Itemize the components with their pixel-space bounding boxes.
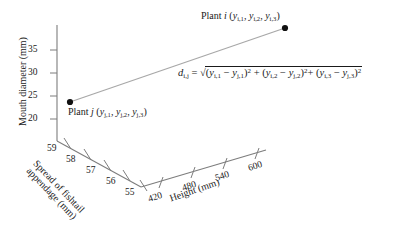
data-point-plant-j xyxy=(67,99,73,105)
plant-i-prefix: Plant xyxy=(201,10,222,21)
spread-tick-58 xyxy=(84,149,91,160)
height-tick-420 xyxy=(159,177,163,188)
point-label-plant-j: Plant j (yj,1, yj,2, yj,3) xyxy=(68,106,147,118)
plant-j-symbol: j xyxy=(91,106,94,117)
tick-label-spread-58: 58 xyxy=(66,154,76,164)
formula-radicand: (yi,1 − yj,1)2 + (yi,2 − yj,2)2+ (yi,3 −… xyxy=(205,66,362,79)
spread-axis-line xyxy=(57,141,141,187)
figure-3d-distance-diagram: 35 30 25 20 Mouth diameter (mm) 59 58 57… xyxy=(0,0,395,230)
point-label-plant-i: Plant i (yi,1, yi,2, yi,3) xyxy=(201,10,280,22)
height-tick-540 xyxy=(223,158,227,169)
mouth-diameter-axis-group xyxy=(50,25,57,141)
tick-label-mouth-25: 25 xyxy=(28,90,38,100)
formula-equals: = xyxy=(191,67,197,78)
tick-label-spread-55: 55 xyxy=(125,187,135,197)
axis-title-mouth-diameter: Mouth diameter (mm) xyxy=(17,17,28,147)
plant-i-symbol: i xyxy=(224,10,227,21)
tick-label-mouth-35: 35 xyxy=(28,44,38,54)
tick-label-mouth-30: 30 xyxy=(28,67,38,77)
spread-tick-57 xyxy=(104,160,111,171)
plant-j-prefix: Plant xyxy=(68,106,89,117)
tick-label-spread-56: 56 xyxy=(106,176,116,186)
tick-label-spread-59: 59 xyxy=(47,143,57,153)
tick-label-spread-57: 57 xyxy=(86,165,96,175)
data-point-plant-i xyxy=(282,25,288,31)
euclidean-distance-formula: di,j = √(yi,1 − yj,1)2 + (yi,2 − yj,2)2+… xyxy=(178,66,362,79)
formula-d-sub: i,j xyxy=(183,72,189,79)
distance-connector-line xyxy=(70,28,285,102)
spread-axis-group xyxy=(57,138,147,191)
tick-label-mouth-20: 20 xyxy=(28,113,38,123)
formula-sqrt: √(yi,1 − yj,1)2 + (yi,2 − yj,2)2+ (yi,3 … xyxy=(200,66,362,79)
